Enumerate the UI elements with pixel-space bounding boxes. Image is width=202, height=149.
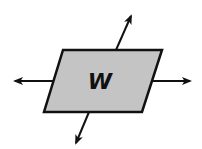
plane-diagram: W [0,0,202,149]
arrow-up-icon [116,16,131,50]
plane-label: W [88,69,114,94]
arrow-down-icon [76,112,89,143]
